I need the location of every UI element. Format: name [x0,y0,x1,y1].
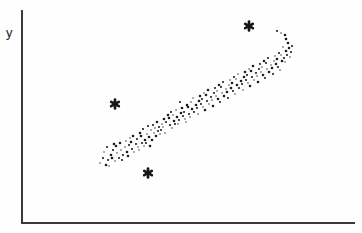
scatter-point [267,57,269,59]
scatter-point [229,79,230,80]
scatter-point [227,97,229,99]
scatter-point [174,123,176,125]
outlier-asterisk-marker [144,169,152,178]
scatter-point [178,119,180,121]
scatter-point [201,98,203,100]
scatter-point [180,112,183,115]
scatter-point [139,132,142,135]
scatter-point [172,114,173,115]
scatter-point [268,71,271,74]
scatter-point [155,135,158,138]
scatter-point [193,111,195,113]
scatter-point [244,71,247,74]
scatter-point [207,89,210,92]
scatter-point [247,82,248,83]
scatter-point [158,126,160,128]
scatter-point [287,42,290,45]
scatter-point [281,60,284,63]
scatter-point [147,125,149,127]
scatter-point [114,160,115,161]
scatter-point [233,76,235,78]
scatter-point [113,143,116,146]
scatter-point [102,157,104,159]
scatter-point [284,61,285,62]
scatter-point [169,124,171,126]
scatter-point [118,157,120,159]
scatter-point [280,32,281,33]
scatter-plot-figure: y [0,0,362,233]
scatter-point [284,34,287,37]
scatter-point [152,124,154,126]
scatter-point [177,123,178,124]
scatter-point [289,56,290,57]
scatter-point [126,151,129,154]
scatter-point [263,60,266,63]
scatter-point [143,145,144,146]
scatter-point [124,146,125,147]
scatter-point [232,90,234,92]
scatter-point [131,148,133,150]
scatter-point [279,69,280,70]
scatter-point [204,109,207,112]
scatter-point [185,121,186,122]
scatter-point [103,151,104,152]
scatter-point [223,95,226,98]
scatter-point [133,151,134,152]
scatter-point [119,142,122,145]
scatter-point [163,118,166,121]
scatter-point [159,133,160,134]
scatter-point [225,88,226,89]
scatter-point [154,127,155,128]
scatter-point [261,66,262,67]
scatter-point [153,132,154,133]
scatter-point [282,46,283,47]
scatter-point [167,114,170,117]
scatter-point [170,111,172,113]
scatter-point [238,87,240,89]
scatter-point [112,149,114,151]
scatter-point [157,130,159,132]
scatter-point [240,80,243,83]
scatter-point [191,108,194,111]
scatter-point [236,84,239,87]
scatter-point [173,120,176,123]
scatter-point [189,116,190,117]
scatter-point [253,79,254,80]
scatter-point [211,99,212,100]
scatter-point [148,136,151,139]
scatter-point [210,96,212,98]
scatter-point [290,51,292,53]
scatter-point [176,116,179,119]
scatter-point [222,81,224,83]
scatter-point [205,94,208,97]
scatter-point [245,79,247,81]
scatter-point [285,38,288,41]
scatter-point [140,135,143,138]
scatter-point [265,62,267,64]
scatter-point [111,157,114,160]
scatter-point [228,84,229,85]
scatter-point [221,92,222,93]
scatter-point [107,159,109,161]
scatter-point [116,152,117,153]
scatter-point [144,139,147,142]
scatter-point [257,81,260,84]
scatter-point [288,47,291,50]
scatter-point [182,115,184,117]
scatter-point [171,127,172,128]
scatter-point [137,146,138,147]
scatter-point [213,92,215,94]
scatter-point [168,117,171,120]
scatter-point [241,83,243,85]
scatter-point [136,138,138,140]
scatter-point [187,106,190,109]
outlier-asterisk-marker [111,100,119,109]
outlier-asterisk-marker [245,22,253,31]
scatter-point [156,121,159,124]
scatter-point [217,98,220,101]
scatter-point [175,109,176,110]
scatter-point [145,142,147,144]
scatter-point [276,30,278,32]
scatter-point [260,71,261,72]
scatter-point [198,100,201,103]
